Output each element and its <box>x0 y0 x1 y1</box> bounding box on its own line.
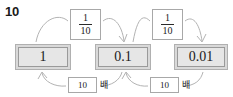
value-box-hundredth[interactable]: 0.01 <box>174 44 228 70</box>
value-box-tenth[interactable]: 0.1 <box>95 44 151 70</box>
fraction-denominator-left: 10 <box>81 26 91 37</box>
value-box-tenth-label: 0.1 <box>98 47 148 67</box>
arrow-tenth-to-one <box>42 73 66 86</box>
multiplier-box-left[interactable]: 10 <box>68 77 97 93</box>
value-box-one-label: 1 <box>18 47 68 67</box>
multiplier-group-left[interactable]: 10 배 <box>68 77 108 93</box>
fraction-denominator-right: 10 <box>163 26 173 37</box>
arrow-tenth-to-hundredth-head <box>185 19 202 41</box>
arrow-hundredth-to-tenth <box>126 73 148 86</box>
fraction-box-right[interactable]: 1 10 <box>152 9 183 40</box>
fraction-box-left[interactable]: 1 10 <box>70 9 101 40</box>
multiplier-box-right[interactable]: 10 <box>150 77 179 93</box>
multiplier-group-right[interactable]: 10 배 <box>150 77 190 93</box>
worksheet-diagram-panel: 10 1 0.1 0.01 1 10 1 10 <box>0 0 233 97</box>
multiplier-unit-right: 배 <box>182 81 190 90</box>
value-box-hundredth-label: 0.01 <box>177 47 225 67</box>
fraction-numerator-right: 1 <box>165 13 170 24</box>
fraction-numerator-left: 1 <box>83 13 88 24</box>
arrow-tenth-to-hundredth <box>133 18 150 42</box>
multiplier-unit-left: 배 <box>100 81 108 90</box>
arrow-one-to-tenth <box>36 17 68 42</box>
value-box-one[interactable]: 1 <box>15 44 71 70</box>
